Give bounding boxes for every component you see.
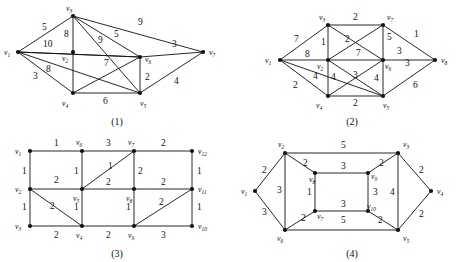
edge-weight: 2 [54, 175, 59, 185]
vertex-label-v7: v7 [387, 13, 394, 23]
edge-weight: 2 [138, 166, 143, 176]
vertex-label-v5: v5 [403, 234, 410, 244]
edge-weight: 4 [174, 76, 179, 86]
edge-weight: 1 [108, 161, 113, 171]
panel-caption-1: (1) [111, 116, 123, 128]
edge-weight: 2 [293, 80, 298, 90]
edge-weight: 7 [294, 34, 299, 44]
edge-weight: 1 [74, 166, 79, 176]
edge-weight: 2 [303, 158, 308, 168]
edge-weight: 1 [414, 29, 419, 39]
edge-weight: 8 [305, 49, 310, 59]
graph-panel-3: v1 v6 v7 v12 v2 v5 v8 v11 v3 v4 v9 v10 1… [0, 131, 235, 262]
graph-1-canvas: v1 v2 v3 v4 v5 v6 v7 5 10 8 3 8 5 9 9 7 … [0, 0, 235, 131]
vertex-label-v4: v4 [316, 101, 323, 111]
edge-weight: 1 [321, 37, 326, 47]
vertex-label-v3: v3 [403, 140, 410, 150]
graph-2-canvas: v1 v2 v3 v4 v5 v6 v7 v8 7 8 2 4 2 1 2 5 … [235, 0, 470, 131]
edge-weight: 2 [378, 215, 383, 225]
edge-weight: 2 [159, 197, 164, 207]
vertex-label-v1: v1 [265, 56, 272, 66]
edge-weight: 1 [126, 202, 131, 212]
graph-panel-1: v1 v2 v3 v4 v5 v6 v7 5 10 8 3 8 5 9 9 7 … [0, 0, 235, 131]
edge-weight: 3 [106, 138, 111, 148]
edge-weight: 2 [419, 165, 424, 175]
edge-weight: 4 [390, 187, 395, 197]
vertex-label-v3: v3 [15, 222, 22, 232]
edge-weight: 1 [22, 202, 27, 212]
vertex-label-v5: v5 [383, 101, 390, 111]
vertex-label-v4: v4 [437, 187, 444, 197]
vertex-label-v1: v1 [4, 48, 11, 58]
edge-weight: 2 [145, 72, 150, 82]
vertex-label-v1: v1 [15, 147, 22, 157]
edge-weight: 2 [345, 34, 350, 44]
edge-weight: 3 [341, 199, 346, 209]
edge-weight: 1 [74, 202, 79, 212]
edge-weight: 3 [262, 207, 267, 217]
edge-weight: 1 [197, 202, 202, 212]
edge-weight: 3 [405, 58, 410, 68]
edge-weight: 2 [54, 230, 59, 240]
edge-weight: 9 [98, 35, 103, 45]
edge-weight: 3 [397, 46, 402, 56]
edge-weight: 8 [46, 64, 51, 74]
edge-weight: 5 [341, 140, 346, 150]
edge-weight: 2 [50, 201, 55, 211]
edge-weight: 1 [54, 138, 59, 148]
edge-weight: 7 [104, 58, 109, 68]
vertex-label-v5: v5 [140, 99, 147, 109]
edge-weight: 1 [307, 187, 312, 197]
vertex-label-v2: v2 [62, 54, 69, 64]
edge-weight: 3 [353, 70, 358, 80]
edge-weight: 6 [413, 80, 418, 90]
edge-weight: 3 [277, 185, 282, 195]
edge-weight: 3 [373, 187, 378, 197]
vertex-label-v1: v1 [241, 187, 248, 197]
vertex-label-v7: v7 [128, 138, 135, 148]
edge-weight: 2 [379, 158, 384, 168]
graph-2-edges [280, 25, 435, 96]
edge-weight: 2 [353, 98, 358, 108]
edge-weight: 2 [161, 177, 166, 187]
panel-caption-2: (2) [346, 116, 358, 128]
vertex-label-v9: v9 [371, 172, 378, 182]
vertex-label-v12: v12 [198, 147, 207, 157]
edge-weight: 3 [161, 230, 166, 240]
edge-weight: 4 [313, 71, 318, 81]
edge-weight: 4 [331, 72, 336, 82]
edge-weight: 6 [103, 96, 108, 106]
vertex-label-v6: v6 [76, 138, 83, 148]
vertex-label-v10: v10 [198, 222, 207, 232]
vertex-label-v2: v2 [317, 62, 324, 72]
vertex-label-v6: v6 [385, 62, 392, 72]
edge-weight: 2 [161, 138, 166, 148]
vertex-label-v7: v7 [209, 48, 216, 58]
graph-panel-2: v1 v2 v3 v4 v5 v6 v7 v8 7 8 2 4 2 1 2 5 … [235, 0, 470, 131]
edge-weight: 1 [197, 166, 202, 176]
panel-caption-4: (4) [346, 248, 358, 260]
panel-caption-3: (3) [111, 248, 123, 260]
vertex-label-v3: v3 [66, 4, 73, 14]
graph-3-canvas: v1 v6 v7 v12 v2 v5 v8 v11 v3 v4 v9 v10 1… [0, 131, 235, 262]
edge-weight: 10 [43, 39, 53, 49]
vertex-label-v11: v11 [198, 185, 207, 195]
edge-weight: 2 [353, 12, 358, 22]
edge-weight: 2 [106, 177, 111, 187]
graph-4-vertex-labels: v1 v2 v6 v8 v7 v9 v10 v3 v5 v4 [241, 140, 444, 244]
edge-weight: 3 [172, 39, 177, 49]
edge-weight: 4 [374, 73, 379, 83]
graph-4-canvas: v1 v2 v6 v8 v7 v9 v10 v3 v5 v4 2 3 5 3 2… [235, 131, 470, 262]
edge-weight: 2 [262, 165, 267, 175]
edge-weight: 7 [356, 48, 361, 58]
vertex-label-v3: v3 [319, 13, 326, 23]
edge-weight: 1 [22, 166, 27, 176]
vertex-label-v4: v4 [76, 231, 83, 241]
graph-panel-4: v1 v2 v6 v8 v7 v9 v10 v3 v5 v4 2 3 5 3 2… [235, 131, 470, 262]
vertex-label-v6: v6 [277, 234, 284, 244]
figure-grid: v1 v2 v3 v4 v5 v6 v7 5 10 8 3 8 5 9 9 7 … [0, 0, 470, 262]
edge-weight: 5 [341, 215, 346, 225]
edge-weight: 5 [114, 29, 119, 39]
edge-weight: 2 [301, 213, 306, 223]
vertex-label-v2: v2 [278, 140, 285, 150]
